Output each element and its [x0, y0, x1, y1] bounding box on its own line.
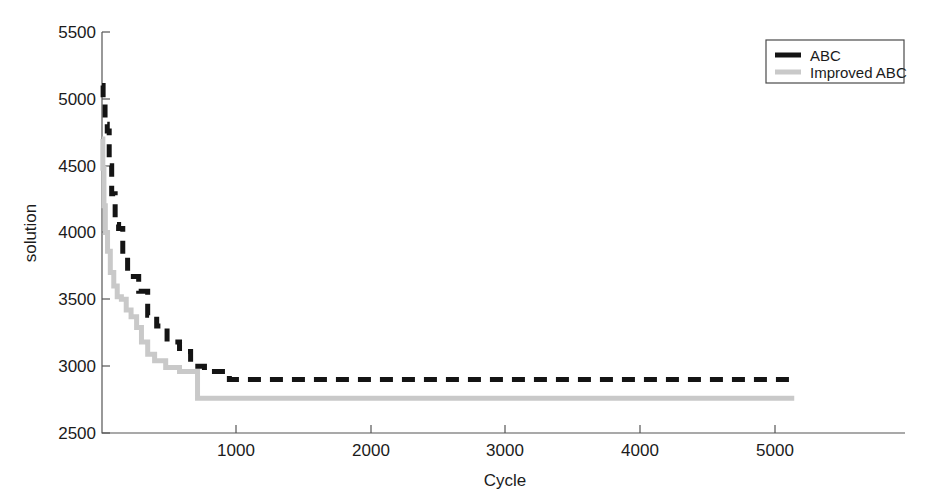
y-tick-label: 4500: [58, 157, 96, 176]
x-tick-marks: [236, 425, 775, 433]
legend-label-abc: ABC: [810, 47, 841, 64]
y-tick-label: 3000: [58, 357, 96, 376]
x-tick-label: 4000: [621, 441, 659, 460]
series-line-improved-abc: [102, 139, 794, 398]
x-axis-title: Cycle: [484, 471, 527, 490]
line-chart: 2500 3000 3500 4000 4500 5000 5500 1000 …: [0, 0, 940, 501]
x-tick-labels: 1000 2000 3000 4000 5000: [217, 441, 794, 460]
x-tick-label: 5000: [756, 441, 794, 460]
legend-label-improved-abc: Improved ABC: [810, 64, 907, 81]
x-tick-label: 1000: [217, 441, 255, 460]
y-tick-label: 5500: [58, 23, 96, 42]
y-tick-labels: 2500 3000 3500 4000 4500 5000 5500: [58, 23, 96, 443]
chart-legend: ABC Improved ABC: [766, 40, 907, 83]
y-tick-label: 4000: [58, 223, 96, 242]
series-line-abc: [102, 85, 794, 379]
y-tick-label: 2500: [58, 424, 96, 443]
y-tick-label: 5000: [58, 90, 96, 109]
chart-figure: 2500 3000 3500 4000 4500 5000 5500 1000 …: [0, 0, 940, 501]
x-tick-label: 3000: [486, 441, 524, 460]
x-tick-label: 2000: [352, 441, 390, 460]
y-axis-title: solution: [21, 204, 40, 263]
y-tick-label: 3500: [58, 290, 96, 309]
